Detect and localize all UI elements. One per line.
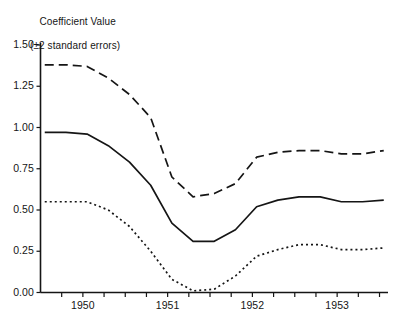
chart-series-group	[45, 65, 384, 291]
y-tick-label: 1.25	[2, 79, 34, 91]
chart-figure: Coefficient Value (±2 standard errors) 0…	[0, 0, 394, 315]
chart-axes	[37, 43, 389, 297]
y-tick-label: 1.50	[2, 38, 34, 50]
series-point-estimate	[45, 132, 384, 241]
series-lower-bound	[45, 202, 384, 291]
y-tick-label: 0.25	[2, 244, 34, 256]
y-tick-label: 0.75	[2, 162, 34, 174]
x-tick-label: 1952	[229, 299, 275, 311]
series-upper-bound	[45, 65, 384, 197]
y-tick-label: 0.00	[2, 286, 34, 298]
x-tick-label: 1951	[145, 299, 191, 311]
y-tick-label: 1.00	[2, 121, 34, 133]
y-tick-label: 0.50	[2, 203, 34, 215]
x-tick-label: 1950	[60, 299, 106, 311]
x-tick-label: 1953	[314, 299, 360, 311]
chart-canvas	[0, 0, 394, 315]
